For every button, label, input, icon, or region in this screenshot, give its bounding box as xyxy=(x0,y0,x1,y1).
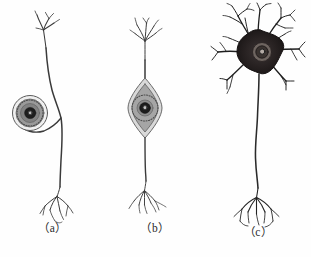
neuron-figure-plate: （a） xyxy=(0,0,311,257)
panel-c-caption: （c） xyxy=(205,223,311,239)
dendrite-tree-top xyxy=(35,11,60,48)
nucleolus xyxy=(143,106,147,110)
axon-trunk xyxy=(255,74,259,188)
terminal-branches xyxy=(234,188,279,227)
neuron-panel-a: （a） xyxy=(0,0,105,257)
axon-trunk xyxy=(46,48,62,187)
terminal-branches xyxy=(40,187,73,223)
panel-b-caption: （b） xyxy=(105,219,205,235)
neuron-panel-b: （b） xyxy=(105,0,205,257)
dendrite-tree-top xyxy=(130,18,162,60)
bipolar-neuron-drawing xyxy=(105,0,205,235)
soma-unipolar xyxy=(13,96,48,131)
soma-bipolar xyxy=(128,78,162,138)
nucleolus xyxy=(28,111,32,115)
panel-a-caption: （a） xyxy=(0,219,105,235)
multipolar-neuron-drawing xyxy=(205,0,311,240)
terminal-branches xyxy=(129,181,166,214)
axon-trunk xyxy=(145,138,146,181)
neuron-panel-c: （c） xyxy=(205,0,311,257)
unipolar-neuron-drawing xyxy=(0,0,105,235)
nucleolus xyxy=(260,49,265,54)
soma-multipolar xyxy=(237,30,284,74)
